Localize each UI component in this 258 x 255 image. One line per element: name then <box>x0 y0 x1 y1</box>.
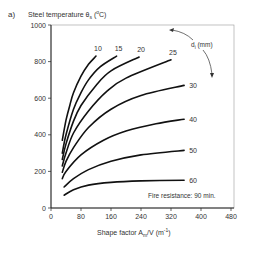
series-line-30 <box>62 85 184 172</box>
y-tick-label: 1000 <box>30 22 46 29</box>
x-tick-label: 160 <box>105 213 117 220</box>
chart: a) Steel temperature θs (oC) 02004006008… <box>0 0 258 255</box>
y-tick-label: 400 <box>34 131 46 138</box>
series-label-20: 20 <box>137 46 145 53</box>
x-tick-label: 400 <box>195 213 207 220</box>
panel-label: a) <box>8 10 15 19</box>
annotation: Fire resistance: 90 min. <box>148 192 216 199</box>
series-line-25 <box>62 60 171 166</box>
x-tick-label: 480 <box>225 213 237 220</box>
y-axis: 02004006008001000 <box>30 22 51 212</box>
y-tick-label: 600 <box>34 95 46 102</box>
series-line-40 <box>62 119 184 179</box>
series-label-60: 60 <box>189 177 197 184</box>
x-tick-label: 240 <box>135 213 147 220</box>
series-labels: 1015202530405060 <box>94 45 197 184</box>
x-tick-label: 80 <box>77 213 85 220</box>
legend-arrowhead-up <box>169 28 174 32</box>
legend-arrow-up <box>172 30 193 40</box>
x-tick-label: 320 <box>165 213 177 220</box>
y-tick-label: 0 <box>42 205 46 212</box>
series-label-10: 10 <box>94 45 102 52</box>
series-label-25: 25 <box>169 49 177 56</box>
y-axis-title: Steel temperature θs (oC) <box>28 9 106 20</box>
legend-title: di (mm) <box>191 41 213 50</box>
series-label-40: 40 <box>189 116 197 123</box>
series-label-50: 50 <box>189 147 197 154</box>
series-lines <box>62 56 184 195</box>
series-label-30: 30 <box>189 82 197 89</box>
x-axis: 080160240320400480 <box>49 208 237 220</box>
legend-arrowhead-down <box>210 73 214 78</box>
x-axis-title: Shape factor Am/V (m-1) <box>97 227 171 238</box>
legend-arrow-down <box>203 50 212 74</box>
series-label-15: 15 <box>115 45 123 52</box>
x-tick-label: 0 <box>49 213 53 220</box>
y-tick-label: 200 <box>34 168 46 175</box>
y-tick-label: 800 <box>34 58 46 65</box>
